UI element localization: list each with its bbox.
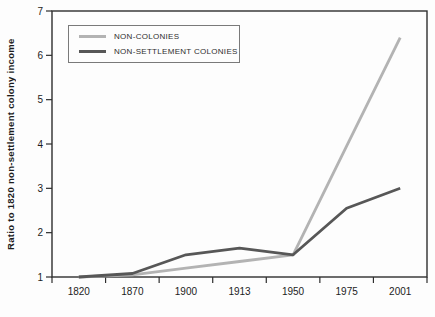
legend-box: NON-COLONIES NON-SETTLEMENT COLONIES xyxy=(68,25,240,63)
x-tick-label: 1950 xyxy=(282,286,305,297)
legend-label-non-colonies: NON-COLONIES xyxy=(114,32,179,41)
series-line-0 xyxy=(79,38,400,277)
y-tick-label: 2 xyxy=(37,227,43,238)
legend-item-non-colonies: NON-COLONIES xyxy=(79,32,233,41)
x-tick-label: 1870 xyxy=(121,286,144,297)
x-tick-label: 1913 xyxy=(228,286,251,297)
x-tick-label: 1820 xyxy=(68,286,91,297)
x-tick-label: 1975 xyxy=(336,286,359,297)
series-line-1 xyxy=(79,188,400,277)
y-tick-label: 7 xyxy=(37,6,43,17)
x-tick-label: 1900 xyxy=(175,286,198,297)
y-tick-label: 1 xyxy=(37,272,43,283)
y-tick-label: 5 xyxy=(37,94,43,105)
y-tick-label: 4 xyxy=(37,139,43,150)
x-tick-label: 2001 xyxy=(389,286,412,297)
y-tick-label: 3 xyxy=(37,183,43,194)
non-colonies-line-swatch xyxy=(79,35,106,38)
legend-label-non-settlement-colonies: NON-SETTLEMENT COLONIES xyxy=(114,47,238,56)
legend-item-non-settlement-colonies: NON-SETTLEMENT COLONIES xyxy=(79,47,233,56)
chart-figure: Ratio to 1820 non-settlement colony inco… xyxy=(0,0,435,317)
y-tick-label: 6 xyxy=(37,50,43,61)
non-settlement-colonies-line-swatch xyxy=(79,50,106,54)
